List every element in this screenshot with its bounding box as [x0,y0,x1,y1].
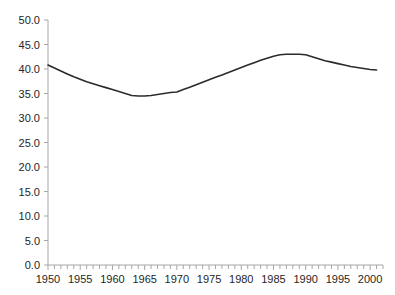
y-axis-tick-label: 50.0 [19,14,40,26]
y-axis-tick-label: 45.0 [19,39,40,51]
chart-plot-area: 0.05.010.015.020.025.030.035.040.045.050… [0,0,395,295]
y-axis-tick-label: 15.0 [19,186,40,198]
x-axis-tick-label: 1950 [36,273,60,285]
y-axis-tick-label: 0.0 [25,259,40,271]
y-axis: 0.05.010.015.020.025.030.035.040.045.050… [19,14,48,271]
x-axis-tick-label: 1995 [326,273,350,285]
x-axis-tick-label: 1965 [132,273,156,285]
x-axis-minor-ticks [48,265,383,270]
y-axis-tick-label: 20.0 [19,161,40,173]
y-axis-tick-label: 5.0 [25,235,40,247]
x-axis-tick-label: 1975 [197,273,221,285]
x-axis-tick-label: 2000 [358,273,382,285]
y-axis-tick-label: 10.0 [19,210,40,222]
y-axis-tick-label: 25.0 [19,137,40,149]
y-axis-ticks [44,20,48,265]
x-axis-tick-label: 1985 [261,273,285,285]
x-axis-tick-label: 1970 [165,273,189,285]
x-axis: 1950195519601965197019751980198519901995… [36,265,383,285]
x-axis-tick-label: 1990 [293,273,317,285]
y-axis-tick-labels: 0.05.010.015.020.025.030.035.040.045.050… [19,14,40,271]
y-axis-tick-label: 40.0 [19,63,40,75]
x-axis-tick-label: 1960 [100,273,124,285]
data-series-line [48,54,377,96]
y-axis-tick-label: 30.0 [19,112,40,124]
y-axis-tick-label: 35.0 [19,88,40,100]
x-axis-tick-labels: 1950195519601965197019751980198519901995… [36,273,383,285]
line-chart: 0.05.010.015.020.025.030.035.040.045.050… [0,0,395,295]
x-axis-tick-label: 1955 [68,273,92,285]
x-axis-tick-label: 1980 [229,273,253,285]
